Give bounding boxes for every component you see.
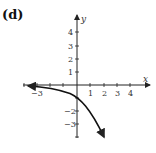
x-tick-label: 1 [88,89,93,98]
y-tick-label: −3 [64,120,76,129]
y-axis-label: y [80,14,87,24]
x-tick-label: −3 [31,89,43,98]
graph: −3 1 2 3 4 4 3 2 1 −2 −3 x y [0,0,156,153]
x-axis-label: x [143,74,148,84]
x-tick-label: 2 [102,89,107,98]
x-tick-label: 3 [115,89,120,98]
y-tick-label: −2 [64,107,76,116]
y-tick-label: 1 [68,68,73,77]
x-tick-label: 4 [128,89,133,98]
y-tick-label: 2 [68,55,73,64]
y-tick-label: 3 [68,42,73,51]
y-tick-label: 4 [68,28,73,37]
